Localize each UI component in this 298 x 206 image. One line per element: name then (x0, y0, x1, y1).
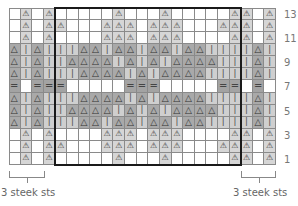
triangle-icon: △ (255, 57, 262, 66)
vertical-bar-icon: ǀ (129, 70, 131, 78)
bar-cell: ǀ (21, 117, 33, 129)
triangle-dot-icon: ⚠ (127, 142, 134, 150)
triangle-dot-icon: ⚠ (231, 130, 238, 138)
blank-cell (67, 129, 79, 141)
triangle-cell: △ (90, 105, 102, 117)
bar-cell: ǀ (55, 93, 67, 105)
double-bar-cell: = (44, 80, 56, 92)
bar-cell: ǀ (44, 44, 56, 56)
triangle-icon: △ (11, 118, 18, 127)
triangle-cell: △ (32, 117, 44, 129)
triangle-cell: △ (125, 56, 137, 68)
triangle-icon: △ (34, 57, 41, 66)
vertical-bar-icon: ǀ (222, 70, 224, 78)
triangle-cell: △ (160, 44, 172, 56)
triangle-cell: △ (32, 105, 44, 117)
triangle-dot-icon: ⚠ (104, 130, 111, 138)
triangle-cell: △ (148, 44, 160, 56)
triangle-cell: △ (67, 56, 79, 68)
vertical-bar-icon: ǀ (141, 118, 143, 126)
blank-cell (9, 129, 21, 141)
bar-cell: ǀ (137, 105, 149, 117)
motif-a-cell: ⚠ (125, 32, 137, 44)
blank-cell (183, 153, 195, 165)
blank-cell (218, 8, 230, 20)
triangle-icon: △ (173, 69, 180, 78)
triangle-dot-icon: ⚠ (266, 22, 273, 30)
motif-a-cell: ⚠ (125, 141, 137, 153)
vertical-bar-icon: ǀ (269, 70, 271, 78)
vertical-bar-icon: ǀ (48, 106, 50, 114)
blank-cell (206, 153, 218, 165)
triangle-cell: △ (102, 93, 114, 105)
blank-cell (32, 8, 44, 20)
motif-a-cell: ⚠ (230, 20, 242, 32)
motif-a-cell: ⚠ (160, 129, 172, 141)
triangle-icon: △ (127, 118, 134, 127)
motif-a-cell: ⚠ (113, 20, 125, 32)
bar-cell: ǀ (218, 68, 230, 80)
triangle-dot-icon: ⚠ (162, 142, 169, 150)
vertical-bar-icon: ǀ (48, 94, 50, 102)
bar-cell: ǀ (230, 93, 242, 105)
blank-cell (206, 141, 218, 153)
triangle-cell: △ (172, 68, 184, 80)
vertical-bar-icon: ǀ (71, 46, 73, 54)
motif-a-cell: ⚠ (218, 141, 230, 153)
triangle-dot-icon: ⚠ (266, 10, 273, 18)
blank-cell (79, 20, 91, 32)
vertical-bar-icon: ǀ (48, 70, 50, 78)
row-number-label: 7 (284, 81, 290, 92)
bar-cell: ǀ (230, 56, 242, 68)
equals-icon: = (231, 81, 239, 91)
triangle-dot-icon: ⚠ (231, 22, 238, 30)
blank-cell (137, 8, 149, 20)
equals-icon: = (126, 81, 134, 91)
blank-cell (79, 153, 91, 165)
triangle-icon: △ (173, 106, 180, 115)
triangle-dot-icon: ⚠ (231, 154, 238, 162)
triangle-icon: △ (115, 45, 122, 54)
bar-cell: ǀ (230, 105, 242, 117)
motif-a-cell: ⚠ (44, 129, 56, 141)
motif-a-cell: ⚠ (241, 32, 253, 44)
bar-cell: ǀ (137, 44, 149, 56)
triangle-icon: △ (11, 94, 18, 103)
vertical-bar-icon: ǀ (245, 70, 247, 78)
bar-cell: ǀ (218, 93, 230, 105)
right-steek-label: 3 steek sts (233, 187, 287, 198)
triangle-cell: △ (90, 56, 102, 68)
blank-cell (9, 153, 21, 165)
triangle-cell: △ (32, 93, 44, 105)
blank-cell (183, 32, 195, 44)
triangle-dot-icon: ⚠ (173, 34, 180, 42)
triangle-cell: △ (253, 56, 265, 68)
motif-a-cell: ⚠ (230, 153, 242, 165)
motif-a-cell: ⚠ (44, 153, 56, 165)
blank-cell (183, 8, 195, 20)
bar-cell: ǀ (55, 117, 67, 129)
triangle-cell: △ (113, 44, 125, 56)
vertical-bar-icon: ǀ (245, 46, 247, 54)
vertical-bar-icon: ǀ (25, 94, 27, 102)
vertical-bar-icon: ǀ (141, 46, 143, 54)
motif-a-cell: ⚠ (230, 141, 242, 153)
motif-a-cell: ⚠ (264, 8, 276, 20)
triangle-cell: △ (183, 93, 195, 105)
motif-a-cell: ⚠ (264, 141, 276, 153)
triangle-dot-icon: ⚠ (46, 154, 53, 162)
triangle-cell: △ (32, 56, 44, 68)
blank-cell (67, 153, 79, 165)
triangle-cell: △ (79, 44, 91, 56)
motif-a-cell: ⚠ (160, 141, 172, 153)
triangle-dot-icon: ⚠ (104, 22, 111, 30)
triangle-dot-icon: ⚠ (46, 142, 53, 150)
blank-cell (125, 8, 137, 20)
triangle-cell: △ (102, 56, 114, 68)
triangle-cell: △ (125, 44, 137, 56)
triangle-icon: △ (92, 45, 99, 54)
blank-cell (90, 20, 102, 32)
blank-cell (79, 8, 91, 20)
vertical-bar-icon: ǀ (118, 106, 120, 114)
triangle-icon: △ (208, 57, 215, 66)
